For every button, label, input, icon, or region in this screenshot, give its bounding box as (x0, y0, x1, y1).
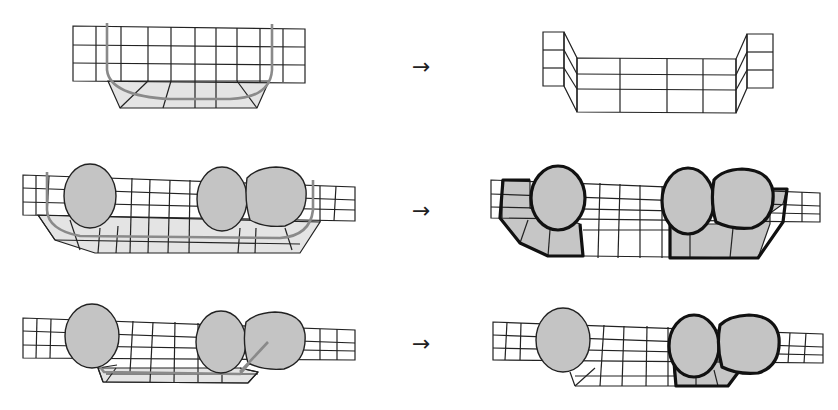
row1-output-mesh (543, 32, 773, 113)
diagram-figure: → → → (0, 0, 838, 410)
row2-output-mesh (491, 166, 820, 258)
row3-output-mesh (493, 308, 823, 386)
row3-input-mesh (23, 304, 355, 383)
row2-input-mesh (23, 164, 355, 253)
row1-transform-arrow: → (412, 56, 430, 78)
row3-transform-arrow: → (412, 333, 430, 355)
row2-transform-arrow: → (412, 200, 430, 222)
row1-input-mesh (73, 23, 305, 108)
